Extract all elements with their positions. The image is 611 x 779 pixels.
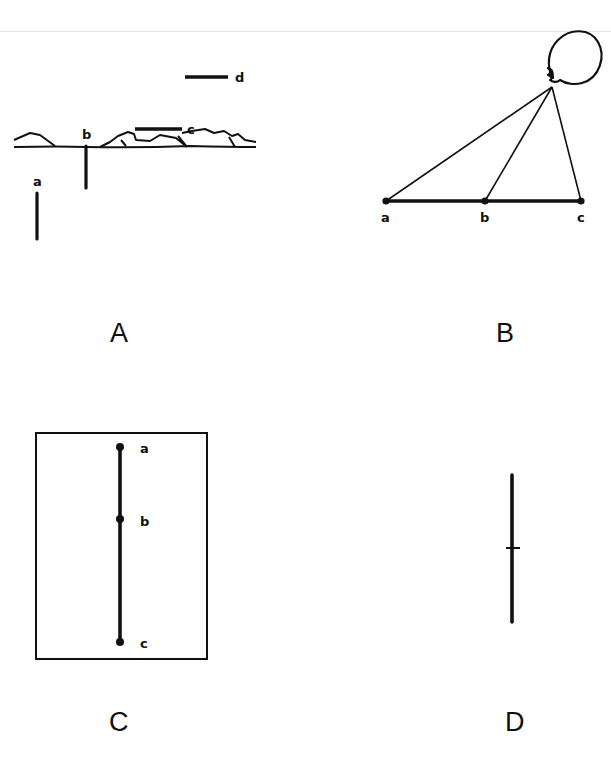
panel-d-figure xyxy=(506,475,520,622)
label-a: a xyxy=(381,210,390,225)
panel-label-a: A xyxy=(110,320,128,347)
label-c: c xyxy=(140,636,148,651)
label-c: c xyxy=(577,210,585,225)
point-b xyxy=(481,197,488,204)
panel-b-figure: a b c xyxy=(381,31,601,225)
label-d: d xyxy=(235,70,244,85)
horizon-line xyxy=(14,146,256,147)
point-c xyxy=(116,638,124,646)
point-a xyxy=(382,197,389,204)
panel-a-figure: a b c d xyxy=(14,70,256,239)
label-b: b xyxy=(140,514,149,529)
label-b: b xyxy=(82,127,91,142)
head-icon xyxy=(548,31,601,84)
diagram-canvas: a b c d a b c a b c xyxy=(0,0,611,779)
panel-label-c: C xyxy=(109,709,129,736)
sightline-b xyxy=(485,87,552,201)
label-b: b xyxy=(480,210,489,225)
point-a xyxy=(116,443,124,451)
panel-label-b: B xyxy=(496,320,514,347)
panel-c-figure: a b c xyxy=(36,433,207,659)
point-c xyxy=(577,197,584,204)
label-c: c xyxy=(187,122,195,137)
sightline-c xyxy=(552,87,581,201)
sightline-a xyxy=(386,87,552,201)
mountain-range xyxy=(14,129,256,147)
panel-label-d: D xyxy=(505,709,525,736)
label-a: a xyxy=(33,174,42,189)
point-b xyxy=(116,515,124,523)
label-a: a xyxy=(140,441,149,456)
